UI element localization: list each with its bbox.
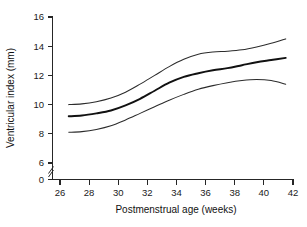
- x-tick-label-42: 42: [288, 187, 299, 198]
- data-curves: [69, 39, 286, 132]
- x-tick-label-36: 36: [200, 187, 211, 198]
- x-tick-label-group: 262830323436384042: [55, 187, 299, 198]
- chart-figure: 06810121416 262830323436384042 Postmenst…: [0, 0, 307, 227]
- y-tick-label-0: 0: [39, 174, 44, 185]
- y-tick-label-6: 6: [39, 157, 44, 168]
- x-tick-label-40: 40: [259, 187, 270, 198]
- y-tick-label-16: 16: [33, 11, 44, 22]
- y-tick-label-8: 8: [39, 128, 44, 139]
- x-tick-label-26: 26: [55, 187, 66, 198]
- x-axis-ticks: [60, 180, 293, 185]
- x-tick-label-30: 30: [113, 187, 124, 198]
- x-tick-label-38: 38: [229, 187, 240, 198]
- y-tick-label-12: 12: [33, 70, 44, 81]
- curve-mean: [69, 58, 286, 116]
- y-axis-ticks: [48, 17, 53, 180]
- x-tick-label-28: 28: [84, 187, 95, 198]
- x-tick-label-34: 34: [171, 187, 182, 198]
- y-tick-label-10: 10: [33, 99, 44, 110]
- curve-upper-centile: [69, 39, 286, 105]
- curve-lower-centile: [69, 79, 286, 132]
- x-tick-label-32: 32: [142, 187, 153, 198]
- y-axis-title: Ventricular index (mm): [5, 48, 16, 148]
- y-tick-label-14: 14: [33, 41, 44, 52]
- chart-canvas: 06810121416 262830323436384042 Postmenst…: [0, 0, 307, 227]
- x-axis-title: Postmenstrual age (weeks): [115, 204, 236, 215]
- y-tick-label-group: 06810121416: [33, 11, 44, 185]
